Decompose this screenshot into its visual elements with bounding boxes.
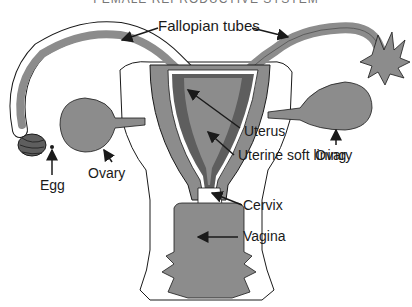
vagina — [162, 203, 256, 298]
label-vagina: Vagina — [243, 229, 286, 243]
cervix — [198, 188, 222, 205]
arrow-ovary-left — [104, 150, 112, 162]
label-fallopian-tubes: Fallopian tubes — [158, 18, 260, 33]
label-cervix: Cervix — [243, 198, 283, 212]
label-egg: Egg — [40, 178, 65, 192]
label-uterine-lining: Uterine soft lining — [238, 148, 346, 162]
egg — [50, 145, 54, 149]
label-ovary-left: Ovary — [88, 166, 125, 180]
label-uterus: Uterus — [244, 124, 285, 138]
right-fimbriae — [360, 32, 410, 85]
left-fimbriae — [18, 134, 46, 156]
